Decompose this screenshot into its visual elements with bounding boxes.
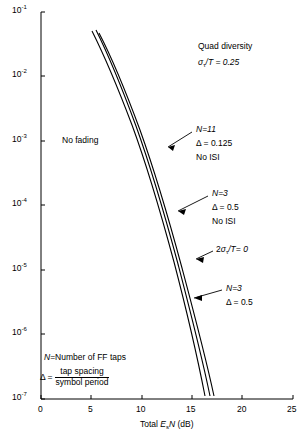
callout-n3-noisi-line3: No ISI — [212, 216, 236, 227]
y-axis-ticks — [41, 12, 45, 399]
leader-line-2sigma — [196, 251, 213, 263]
callout-n3-noisi-n: N=3 — [212, 188, 228, 198]
leader-line-n3-noisi — [178, 196, 208, 215]
y-tick-label-6: 10-6 — [12, 327, 27, 338]
y-tick-label-5: 10-5 — [12, 263, 27, 274]
curve-n3-delta05 — [99, 33, 214, 396]
sigma-ratio-rest: /T = 0.25 — [206, 57, 240, 67]
legend-n-text: =Number of FF taps — [50, 352, 126, 362]
callout-n3-noisi-line1: N=3 — [212, 188, 228, 199]
y-tick-label-4: 10-4 — [12, 198, 27, 209]
annotation-quad-diversity: Quad diversity — [198, 41, 252, 52]
curve-n11-delta0125 — [92, 31, 205, 396]
y-tick-label-2: 10-2 — [12, 69, 27, 80]
legend-n-definition: N=Number of FF taps — [44, 352, 126, 363]
callout-n3-noisi-line2: Δ = 0.5 — [212, 202, 239, 213]
callout-n11-line1: N=11 — [196, 124, 216, 135]
x-tick-label-25: 25 — [287, 404, 296, 415]
callout-n11-line3: No ISI — [196, 152, 220, 163]
callout-n11-line2: Δ = 0.125 — [196, 138, 232, 149]
legend-delta-denominator: symbol period — [55, 378, 110, 388]
y-tick-label-1: 10-1 — [12, 5, 27, 16]
x-axis-title: Total EsN (dB) — [140, 419, 194, 430]
x-axis-title-units: (dB) — [175, 419, 193, 429]
x-tick-label-15: 15 — [186, 404, 195, 415]
y-tick-label-7: 10-7 — [12, 392, 27, 403]
callout-2sigma-rest: /T= 0 — [228, 244, 248, 254]
x-tick-label-0: 0 — [38, 404, 43, 415]
x-tick-label-10: 10 — [136, 404, 145, 415]
chart-figure: 10-1 10-2 10-3 10-4 10-5 10-6 10-7 0 5 1… — [0, 0, 301, 436]
legend-delta-symbol: Δ = — [40, 372, 53, 383]
x-tick-label-5: 5 — [88, 404, 93, 415]
callout-n3-line1: N=3 — [226, 283, 242, 294]
leader-line-n11 — [168, 132, 192, 151]
callout-n11-n: N=11 — [196, 124, 216, 134]
x-axis-ticks — [41, 395, 293, 399]
callout-2sigma-tau: 2στ/T= 0 — [216, 244, 248, 255]
x-axis-title-prefix: Total — [140, 419, 160, 429]
x-tick-label-20: 20 — [237, 404, 246, 415]
legend-delta-definition: Δ = tap spacing symbol period — [40, 367, 109, 388]
annotation-sigma-tau-ratio: στ/T = 0.25 — [198, 57, 239, 68]
callout-n3-n: N=3 — [226, 283, 242, 293]
y-tick-label-3: 10-3 — [12, 134, 27, 145]
legend-delta-fraction: tap spacing symbol period — [55, 367, 110, 388]
leader-line-n3 — [194, 290, 222, 301]
callout-n3-line2: Δ = 0.5 — [226, 297, 253, 308]
annotation-no-fading: No fading — [62, 135, 98, 146]
